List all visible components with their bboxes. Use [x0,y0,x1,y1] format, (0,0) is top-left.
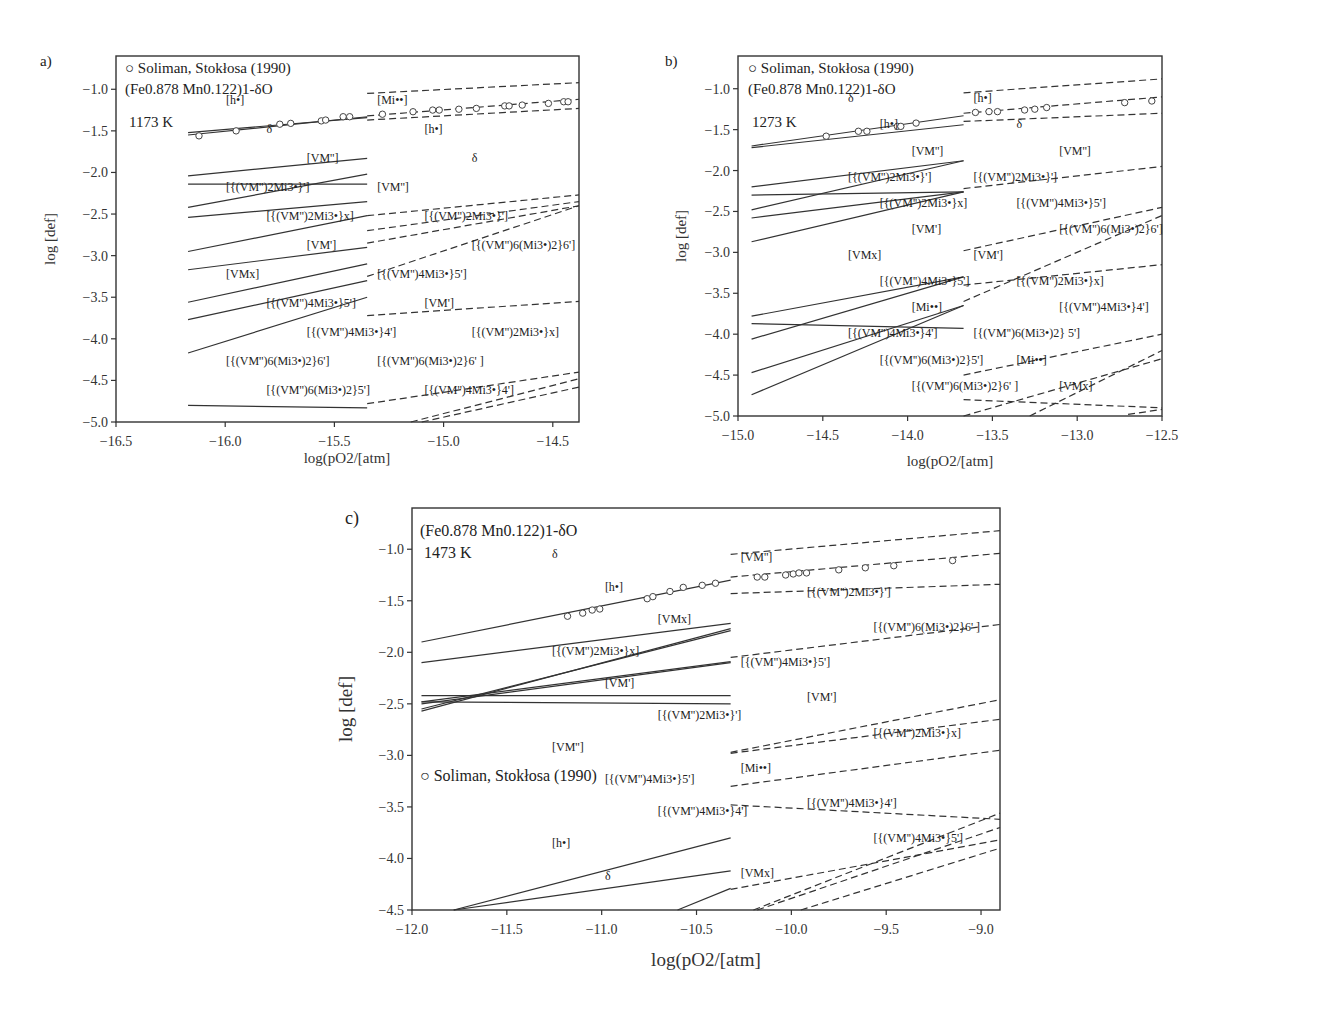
y-tick-label: −4.5 [83,373,108,388]
series-vm-6-mi3-2-5-dashed-line [1030,351,1162,416]
series-vm-dashed-line [964,113,1162,121]
panel-c: c)−12.0−11.5−11.0−10.5−10.0−9.5−9.0−4.5−… [335,508,1000,971]
species-annotation: [{(VM'')4Mi3•}5'] [377,267,467,281]
species-annotation: [VM''] [307,151,339,165]
species-annotation: [{(VM'')4Mi3•}4'] [658,804,748,818]
x-tick-label: −14.5 [807,428,839,443]
y-tick-label: −4.0 [705,327,730,342]
species-annotation: [{(VM'')6(Mi3•)2}6'] [1059,222,1163,236]
y-tick-label: −1.0 [379,542,404,557]
species-annotation: [{(VM'')2Mi3•}'] [974,170,1058,184]
species-annotation: [h•] [880,117,898,131]
data-point [410,109,416,115]
panel-b: b)−15.0−14.5−14.0−13.5−13.0−12.5−5.0−4.5… [665,53,1178,470]
data-point [782,572,788,578]
y-tick-label: −3.0 [705,245,730,260]
data-point [699,582,705,588]
species-annotation: [h•] [552,836,570,850]
species-annotation: [{(VM'')4Mi3•}4'] [424,383,514,397]
data-point [379,111,385,117]
data-point [712,580,718,586]
data-point [288,120,294,126]
series-mi-dashed-line [964,400,1162,408]
species-annotation: [VM'] [605,676,635,690]
series-vmx-dashed-line [1128,409,1162,414]
species-annotation: [Mi••] [1016,353,1046,367]
data-point [986,108,992,114]
species-annotation: [{(VM'')4Mi3•}5'] [266,296,356,310]
temperature-label: 1273 K [752,114,797,130]
data-point [436,107,442,113]
species-annotation: [VMx] [1059,379,1092,393]
species-annotation: [h•] [424,122,442,136]
compound-label: (Fe0.878 Mn0.122)1-δO [420,522,577,540]
data-point [762,574,768,580]
x-tick-label: −9.5 [873,922,898,937]
data-point [898,123,904,129]
species-annotation: [VMx] [658,612,691,626]
data-point [565,99,571,105]
y-tick-label: −1.5 [379,594,404,609]
species-annotation: [{(VM'')2Mi3•}x] [880,196,967,210]
species-annotation: [{(VM'')2Mi3•}x] [1016,274,1103,288]
series-vm-6-mi3-2-6-line [678,888,731,910]
y-tick-label: −5.0 [83,415,108,430]
species-annotation: [{(VM'')6(Mi3•)2}5'] [880,353,984,367]
compound-label: (Fe0.878 Mn0.122)1-δO [125,81,273,98]
species-annotation: [VM''] [741,550,773,564]
y-axis-title: log [def] [673,210,689,262]
series-vm-4mi3-4-line [454,838,731,910]
y-tick-label: −1.0 [705,82,730,97]
species-annotation: [VM''] [377,180,409,194]
y-tick-label: −1.0 [83,82,108,97]
y-tick-label: −5.0 [705,409,730,424]
x-axis-title: log(pO2/[atm] [304,450,391,467]
y-tick-label: −4.5 [379,903,404,918]
species-annotation: [{(VM'')4Mi3•}4'] [807,796,897,810]
species-annotation: [h•] [974,91,992,105]
species-annotation: [Mi••] [741,761,771,775]
x-tick-label: −10.5 [680,922,712,937]
series-item-dashed-line [964,97,1162,113]
x-tick-label: −12.5 [1146,428,1178,443]
x-tick-label: −15.0 [722,428,754,443]
species-annotation: [h•] [226,93,244,107]
y-tick-label: −2.5 [379,697,404,712]
data-point [1032,106,1038,112]
x-tick-label: −15.5 [318,434,350,449]
temperature-label: 1473 K [424,544,472,561]
series-vm-low-line [421,702,730,704]
data-point [545,100,551,106]
x-tick-label: −10.0 [775,922,807,937]
data-point [836,567,842,573]
data-point [913,120,919,126]
species-annotation: [VM'] [912,222,942,236]
x-tick-label: −13.0 [1061,428,1093,443]
y-tick-label: −2.5 [705,204,730,219]
species-annotation: δ [848,91,854,105]
x-axis-title: log(pO2/[atm] [651,949,761,971]
data-point [1021,107,1027,113]
series-vm-4mi3-5-line [454,871,731,910]
data-point [580,610,586,616]
series-vm-line [752,192,964,195]
series-vm-line [421,663,730,704]
species-annotation: [{(VM'')4Mi3•}5'] [880,274,970,288]
data-point [277,121,283,127]
y-tick-label: −2.0 [379,645,404,660]
species-annotation: [{(VM'')4Mi3•}4'] [1059,300,1149,314]
panel-label: b) [665,53,678,70]
data-point [855,128,861,134]
data-point [196,133,202,139]
compound-label: (Fe0.878 Mn0.122)1-δO [748,81,896,98]
y-axis-title: log [def] [335,676,356,742]
y-tick-label: −2.5 [83,207,108,222]
species-annotation: [VM'] [307,238,337,252]
species-annotation: δ [1016,117,1022,131]
series-vmx-dashed-line [731,840,1000,889]
y-tick-label: −3.5 [83,290,108,305]
species-annotation: [{(VM'')2Mi3•}x] [552,644,639,658]
y-tick-label: −3.0 [83,249,108,264]
species-annotation: [{(VM'')6(Mi3•)2}6' ] [874,620,981,634]
species-annotation: [Mi••] [912,300,942,314]
